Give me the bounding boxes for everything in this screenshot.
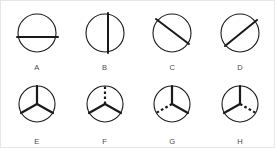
figure-label-c: C xyxy=(170,63,176,73)
figure-item-h: H xyxy=(206,75,274,147)
figure-diagram-e xyxy=(11,79,63,131)
figure-label-d: D xyxy=(237,63,243,73)
figure-item-d: D xyxy=(206,5,274,75)
solid-line xyxy=(156,19,189,44)
figure-diagram-f xyxy=(79,79,131,131)
circle-three-spokes-top-dashed-icon xyxy=(79,79,131,131)
figure-item-b: B xyxy=(71,5,139,75)
lower-right-solid-line xyxy=(37,104,53,113)
circle-outline xyxy=(18,14,56,52)
lower-left-solid-line xyxy=(21,104,37,113)
figure-diagram-h xyxy=(214,79,266,131)
figure-item-c: C xyxy=(139,5,207,75)
circle-outline xyxy=(153,14,191,52)
figure-label-b: B xyxy=(102,63,107,73)
figure-label-g: G xyxy=(169,137,175,147)
figure-item-a: A xyxy=(3,5,71,75)
figure-grid: A B C D E F G H xyxy=(1,1,275,148)
lower-left-solid-line xyxy=(89,104,105,113)
circle-vertical-chord-icon xyxy=(79,8,131,60)
lower-right-dashed-line xyxy=(240,104,256,113)
figure-label-f: F xyxy=(102,137,107,147)
figure-item-f: F xyxy=(71,75,139,147)
figure-label-e: E xyxy=(34,137,39,147)
circle-outline xyxy=(86,14,124,52)
lower-left-dashed-line xyxy=(156,104,172,113)
lower-left-solid-line xyxy=(224,104,240,113)
circle-diagonal-chord-up-icon xyxy=(214,8,266,60)
solid-line xyxy=(225,20,257,46)
figure-diagram-d xyxy=(214,8,266,60)
figure-diagram-c xyxy=(146,8,198,60)
figure-diagram-g xyxy=(146,79,198,131)
circle-diagonal-chord-down-icon xyxy=(146,8,198,60)
figure-item-e: E xyxy=(3,75,71,147)
circle-three-spokes-lower-right-dashed-icon xyxy=(214,79,266,131)
figure-label-a: A xyxy=(34,63,39,73)
circle-three-spokes-all-solid-icon xyxy=(11,79,63,131)
circle-three-spokes-lower-left-dashed-icon xyxy=(146,79,198,131)
figure-panel: A B C D E F G H xyxy=(0,0,275,148)
figure-item-g: G xyxy=(139,75,207,147)
lower-right-solid-line xyxy=(105,104,121,113)
figure-label-h: H xyxy=(237,137,243,147)
figure-diagram-b xyxy=(79,8,131,60)
figure-diagram-a xyxy=(11,8,63,60)
lower-right-solid-line xyxy=(172,104,188,113)
circle-horizontal-chord-icon xyxy=(11,8,63,60)
